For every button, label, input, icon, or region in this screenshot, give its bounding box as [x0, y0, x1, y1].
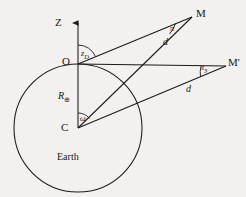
parallax-geometry-diagram: Z O C M M' R⊕ d d zD ω π π3 Earth — [0, 0, 246, 197]
point-label-earth-center: C — [61, 122, 68, 133]
line-C-to-Mprime — [78, 66, 226, 128]
angle-label-parallax-Mprime: π3 — [200, 64, 207, 74]
zenith-distance-subscript: D — [84, 53, 89, 60]
segment-label-earth-radius: R⊕ — [58, 91, 70, 104]
angle-label-parallax-M: π — [170, 25, 174, 33]
line-C-to-M — [78, 17, 192, 128]
point-label-object-apparent: M' — [228, 57, 240, 68]
angle-label-omega: ω — [80, 115, 86, 123]
diagram-canvas — [0, 0, 246, 197]
point-label-observer: O — [62, 56, 70, 67]
parallax-Mprime-subscript: 3 — [204, 67, 207, 74]
point-label-zenith: Z — [55, 17, 62, 28]
segment-label-distance-to-Mprime: d — [186, 84, 191, 94]
segment-label-distance-to-M: d — [163, 37, 168, 47]
earth-radius-subscript: ⊕ — [64, 96, 70, 103]
point-label-object-true: M — [196, 8, 206, 19]
parallax-M-symbol: π — [170, 24, 174, 33]
region-label-earth: Earth — [57, 152, 79, 162]
angle-label-zenith-distance: zD — [81, 50, 89, 60]
